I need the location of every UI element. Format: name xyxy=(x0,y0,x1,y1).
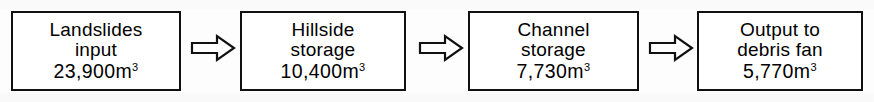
flow-arrow-right-1 xyxy=(190,33,236,63)
node-label-line2: debris fan xyxy=(737,40,822,61)
flow-node-hillside-storage[interactable]: Hillside storage 10,400m3 xyxy=(240,11,406,91)
node-label-line2: storage xyxy=(521,40,586,61)
node-value-text: 23,900m xyxy=(53,60,132,82)
node-value-exponent: 3 xyxy=(132,60,139,72)
node-value: 23,900m3 xyxy=(53,61,138,82)
node-label-line1: Landslides xyxy=(50,20,143,41)
node-value-exponent: 3 xyxy=(584,60,591,72)
node-label-line1: Channel xyxy=(517,20,589,41)
node-label-line2: input xyxy=(75,40,117,61)
node-label-line1: Output to xyxy=(740,20,820,41)
flow-node-landslides-input[interactable]: Landslides input 23,900m3 xyxy=(11,11,181,91)
flow-node-channel-storage[interactable]: Channel storage 7,730m3 xyxy=(468,11,639,91)
node-value: 7,730m3 xyxy=(517,61,591,82)
node-value-text: 5,770m xyxy=(743,60,810,82)
node-value-text: 10,400m xyxy=(280,60,359,82)
node-value: 5,770m3 xyxy=(743,61,817,82)
node-value-exponent: 3 xyxy=(810,60,817,72)
node-label-line2: storage xyxy=(291,40,356,61)
flowchart-canvas: Landslides input 23,900m3 Hillside stora… xyxy=(0,0,874,102)
flow-node-output-to-debris-fan[interactable]: Output to debris fan 5,770m3 xyxy=(697,11,863,91)
flow-arrow-right-2 xyxy=(418,33,464,63)
node-value: 10,400m3 xyxy=(280,61,365,82)
node-value-text: 7,730m xyxy=(517,60,584,82)
node-value-exponent: 3 xyxy=(359,60,366,72)
node-label-line1: Hillside xyxy=(292,20,355,41)
flow-arrow-right-3 xyxy=(648,33,694,63)
